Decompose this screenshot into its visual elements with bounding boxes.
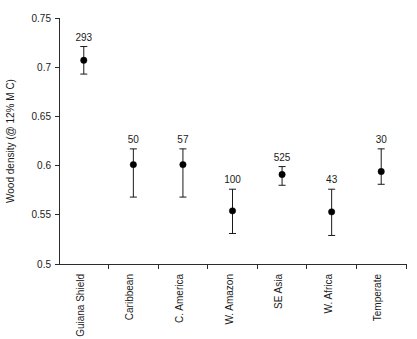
data-point-marker: [130, 161, 136, 167]
x-category-label: W. Africa: [323, 274, 334, 314]
y-tick-label: 0.5: [37, 259, 51, 270]
x-category-label: Guiana Shield: [75, 274, 86, 337]
y-tick-label: 0.55: [32, 209, 52, 220]
data-point-marker: [378, 168, 384, 174]
chart-background: [0, 0, 417, 339]
y-axis-title: Wood density (@ 12% M C): [5, 79, 16, 203]
x-category-label: W. Amazon: [224, 274, 235, 325]
data-point-marker: [229, 208, 235, 214]
y-axis-title-text: Wood density (@ 12% M C): [5, 79, 16, 203]
data-point-marker: [328, 209, 334, 215]
wood-density-chart: 0.50.550.60.650.70.75 Wood density (@ 12…: [0, 0, 417, 339]
x-category-label: Temperate: [372, 274, 383, 322]
y-tick-label: 0.65: [32, 111, 52, 122]
data-point-count-label: 50: [128, 134, 140, 145]
data-point-marker: [279, 171, 285, 177]
y-tick-label: 0.6: [37, 160, 51, 171]
data-point-count-label: 30: [376, 134, 388, 145]
data-point-count-label: 43: [326, 174, 338, 185]
data-point-count-label: 100: [224, 174, 241, 185]
data-point-count-label: 57: [177, 134, 189, 145]
y-tick-label: 0.7: [37, 62, 51, 73]
y-tick-label: 0.75: [32, 13, 52, 24]
x-category-label: Caribbean: [124, 274, 135, 320]
data-point-marker: [180, 161, 186, 167]
x-category-label: C. America: [174, 274, 185, 323]
data-point-count-label: 525: [274, 152, 291, 163]
chart-canvas: 0.50.550.60.650.70.75 Wood density (@ 12…: [0, 0, 417, 339]
data-point-marker: [81, 57, 87, 63]
x-category-label: SE Asia: [273, 274, 284, 309]
data-point-count-label: 293: [75, 32, 92, 43]
